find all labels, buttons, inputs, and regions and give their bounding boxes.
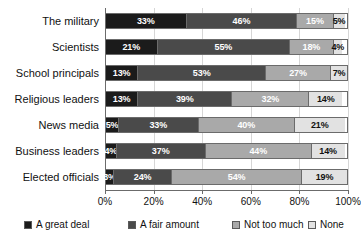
x-axis-tick-label: 20% bbox=[144, 196, 164, 207]
bar-segment: 32% bbox=[231, 92, 308, 106]
plot-area: 33%46%15%5%21%55%18%4%13%53%27%7%13%39%3… bbox=[105, 8, 348, 190]
y-axis-label: The military bbox=[0, 13, 99, 29]
legend-item[interactable]: None bbox=[308, 218, 344, 232]
bar-row: 4%37%44%14% bbox=[105, 143, 348, 159]
x-axis-tick-label: 100% bbox=[335, 196, 361, 207]
bar-row: 21%55%18%4% bbox=[105, 39, 348, 55]
x-axis-tick-label: 80% bbox=[289, 196, 309, 207]
legend-item[interactable]: A great deal bbox=[24, 218, 89, 232]
y-axis-label: News media bbox=[0, 117, 99, 133]
legend-label: A fair amount bbox=[140, 218, 199, 232]
bar-rows: 33%46%15%5%21%55%18%4%13%53%27%7%13%39%3… bbox=[105, 8, 348, 190]
bar-segment: 33% bbox=[106, 14, 186, 28]
bar-segment: 18% bbox=[289, 40, 332, 54]
bar-segment: 14% bbox=[311, 144, 345, 158]
bar-segment: 7% bbox=[330, 66, 347, 80]
x-axis-tick-labels: 0%20%40%60%80%100% bbox=[105, 196, 348, 210]
legend-label: A great deal bbox=[36, 218, 89, 232]
bar-segment: 46% bbox=[186, 14, 297, 28]
bar-segment: 21% bbox=[294, 118, 345, 132]
legend-swatch-icon bbox=[308, 221, 316, 229]
bar-segment: 4% bbox=[106, 144, 116, 158]
y-axis-label: School principals bbox=[0, 65, 99, 81]
bar-segment: 3% bbox=[106, 170, 113, 184]
bar-row: 13%53%27%7% bbox=[105, 65, 348, 81]
legend-item[interactable]: A fair amount bbox=[128, 218, 199, 232]
y-axis-label: Scientists bbox=[0, 39, 99, 55]
y-axis-category-labels: The militaryScientistsSchool principalsR… bbox=[0, 8, 99, 190]
x-axis-tick bbox=[154, 190, 155, 194]
y-axis-label: Business leaders bbox=[0, 143, 99, 159]
bar-row: 5%33%40%21% bbox=[105, 117, 348, 133]
bar-segment: 13% bbox=[106, 92, 137, 106]
bar-segment: 21% bbox=[106, 40, 157, 54]
x-axis-tick-label: 40% bbox=[192, 196, 212, 207]
legend-item[interactable]: Not too much bbox=[232, 218, 303, 232]
x-axis-tick bbox=[202, 190, 203, 194]
bar-segment: 55% bbox=[157, 40, 290, 54]
x-axis-tick bbox=[299, 190, 300, 194]
bar-segment: 15% bbox=[296, 14, 332, 28]
bar-segment: 37% bbox=[116, 144, 205, 158]
legend-swatch-icon bbox=[24, 221, 32, 229]
bar-segment: 33% bbox=[118, 118, 198, 132]
legend-label: None bbox=[320, 218, 344, 232]
bar-segment: 14% bbox=[308, 92, 342, 106]
y-axis-label: Elected officials bbox=[0, 169, 99, 185]
bar-segment: 44% bbox=[205, 144, 311, 158]
stacked-bar-chart: The militaryScientistsSchool principalsR… bbox=[0, 0, 361, 238]
x-axis-tick-label: 60% bbox=[241, 196, 261, 207]
gridline-100 bbox=[348, 8, 349, 190]
x-axis-tick-label: 0% bbox=[98, 196, 112, 207]
legend-swatch-icon bbox=[128, 221, 136, 229]
chart-legend: A great dealA fair amountNot too muchNon… bbox=[0, 218, 361, 234]
y-axis-label: Religious leaders bbox=[0, 91, 99, 107]
x-axis-tick bbox=[251, 190, 252, 194]
bar-segment: 53% bbox=[137, 66, 265, 80]
bar-segment: 5% bbox=[106, 118, 118, 132]
bar-segment: 40% bbox=[198, 118, 294, 132]
bar-segment: 27% bbox=[265, 66, 330, 80]
bar-segment: 54% bbox=[171, 170, 301, 184]
x-axis-tick bbox=[348, 190, 349, 194]
bar-row: 13%39%32%14% bbox=[105, 91, 348, 107]
bar-row: 3%24%54%19% bbox=[105, 169, 348, 185]
bar-segment: 19% bbox=[301, 170, 347, 184]
x-axis-tick bbox=[105, 190, 106, 194]
bar-segment: 4% bbox=[333, 40, 343, 54]
bar-segment: 24% bbox=[113, 170, 171, 184]
bar-row: 33%46%15%5% bbox=[105, 13, 348, 29]
bar-segment: 13% bbox=[106, 66, 137, 80]
legend-label: Not too much bbox=[244, 218, 303, 232]
bar-segment: 39% bbox=[137, 92, 231, 106]
bar-segment: 5% bbox=[333, 14, 345, 28]
legend-swatch-icon bbox=[232, 221, 240, 229]
